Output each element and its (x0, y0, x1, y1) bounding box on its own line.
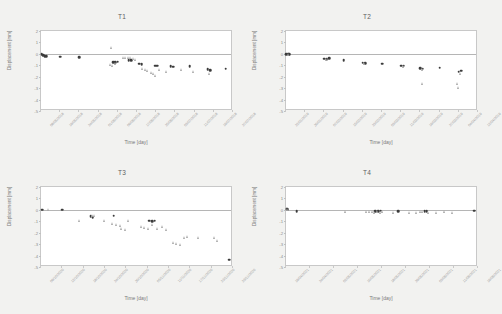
data-point-triangle (114, 62, 116, 65)
data-point-triangle (187, 235, 189, 238)
data-point-circle (225, 67, 228, 70)
data-point-triangle (197, 236, 199, 239)
y-tick-label: -1 (279, 63, 283, 68)
data-point-triangle (422, 68, 424, 71)
y-axis-label: Displacement [mm] (7, 187, 12, 226)
x-tick-mark (429, 266, 430, 268)
x-tick-label: 18/10/2020 (92, 268, 108, 284)
y-tick-label: -4 (279, 97, 283, 102)
x-tick-mark (213, 110, 214, 112)
plot-area: 210-1-2-3-4-5 (285, 30, 477, 110)
x-tick-label: 02/05/2021 (342, 268, 358, 284)
data-point-triangle (183, 236, 185, 239)
x-tick-label: 16/04/2021 (294, 268, 310, 284)
data-point-circle (45, 55, 48, 58)
x-tick-mark (285, 266, 286, 268)
data-point-circle (228, 258, 231, 261)
data-point-triangle (48, 208, 50, 211)
x-tick-mark (147, 266, 148, 268)
x-tick-mark (381, 266, 382, 268)
x-tick-mark (405, 266, 406, 268)
y-tick-label: 0 (281, 207, 283, 212)
y-tick-label: 2 (36, 185, 38, 190)
data-point-triangle (326, 58, 328, 61)
y-tick-label: -4 (34, 253, 38, 258)
x-tick-label: 23/02/2019 (371, 112, 387, 128)
data-point-triangle (148, 227, 150, 230)
x-tick-label: 07/02/2019 (333, 112, 349, 128)
y-tick-mark (284, 198, 286, 199)
zero-axis-line (41, 210, 231, 211)
data-point-triangle (166, 70, 168, 73)
data-point-triangle (78, 219, 80, 222)
data-point-triangle (128, 219, 130, 222)
x-axis-label: Time [day] (285, 139, 477, 145)
chart-panel-t2: T2Displacement [mm]Time [day]210-1-2-3-4… (245, 0, 489, 157)
data-point-triangle (180, 68, 182, 71)
chart-panel-t3: T3Displacement [mm]Time [day]210-1-2-3-4… (0, 156, 244, 313)
y-tick-label: 0 (36, 207, 38, 212)
x-tick-label: 18/05/2021 (390, 268, 406, 284)
y-tick-label: -2 (34, 230, 38, 235)
y-tick-label: -1 (34, 219, 38, 224)
x-tick-mark (477, 110, 478, 112)
data-point-triangle (111, 46, 113, 49)
data-point-circle (473, 209, 476, 212)
x-tick-mark (343, 110, 344, 112)
zero-axis-line (41, 54, 231, 55)
x-tick-mark (117, 110, 118, 112)
x-tick-mark (125, 266, 126, 268)
y-tick-label: -2 (279, 74, 283, 79)
y-tick-mark (284, 77, 286, 78)
x-tick-mark (323, 110, 324, 112)
y-tick-label: 2 (281, 29, 283, 34)
x-tick-mark (453, 266, 454, 268)
data-point-circle (153, 219, 156, 222)
data-point-circle (295, 210, 298, 213)
x-tick-label: 19/03/2019 (429, 112, 445, 128)
data-point-triangle (443, 210, 445, 213)
data-point-triangle (402, 65, 404, 68)
x-tick-mark (333, 266, 334, 268)
x-tick-label: 19/06/2021 (486, 268, 502, 284)
x-tick-label: 27/03/2019 (448, 112, 464, 128)
x-tick-label: 03/07/2018 (184, 112, 200, 128)
data-point-triangle (458, 86, 460, 89)
x-tick-mark (104, 266, 105, 268)
data-point-triangle (213, 236, 215, 239)
data-point-triangle (409, 211, 411, 214)
x-tick-label: 30/10/2020 (135, 268, 151, 284)
x-tick-label: 15/02/2019 (352, 112, 368, 128)
data-point-triangle (121, 227, 123, 230)
x-tick-mark (232, 110, 233, 112)
data-point-circle (59, 55, 62, 58)
zero-axis-line (286, 54, 476, 55)
y-tick-mark (284, 31, 286, 32)
data-point-triangle (112, 64, 114, 67)
data-point-triangle (456, 82, 458, 85)
plot-area: 210-1-2-3-4-5 (285, 186, 477, 266)
x-axis-label: Time [day] (40, 139, 232, 145)
chart-title: T3 (0, 169, 244, 176)
chart-title: T4 (245, 169, 489, 176)
y-tick-label: -3 (279, 86, 283, 91)
x-tick-label: 26/05/2021 (414, 268, 430, 284)
y-tick-label: -5 (279, 109, 283, 114)
chart-title: T1 (0, 13, 244, 20)
data-point-triangle (147, 69, 149, 72)
x-tick-mark (362, 110, 363, 112)
data-point-circle (141, 63, 144, 66)
data-point-triangle (135, 58, 137, 61)
data-point-triangle (173, 241, 175, 244)
data-point-triangle (159, 68, 161, 71)
y-tick-mark (284, 221, 286, 222)
data-point-triangle (116, 223, 118, 226)
x-tick-mark (357, 266, 358, 268)
y-tick-mark (39, 88, 41, 89)
data-point-circle (438, 67, 441, 70)
x-tick-label: 25/06/2018 (164, 112, 180, 128)
data-point-triangle (287, 208, 289, 211)
y-tick-label: 1 (36, 196, 38, 201)
x-tick-label: 23/11/2020 (220, 268, 235, 283)
y-axis-label: Displacement [mm] (7, 31, 12, 70)
